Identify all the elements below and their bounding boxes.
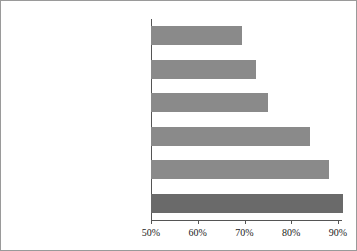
x-axis-tick-mark [151, 220, 152, 224]
bar-row: Psychiatry/Psychology [151, 187, 356, 221]
bar-geosciences [151, 60, 256, 79]
x-axis-tick-label: 70% [225, 228, 265, 238]
x-axis-tick-label: 90% [318, 228, 357, 238]
bar-row: Physics [151, 120, 356, 154]
x-axis-tick-mark [198, 220, 199, 224]
bar-space-sciences [151, 26, 242, 45]
bar-row: Geosciences [151, 53, 356, 87]
bar-psychiatry-psychology [151, 194, 343, 213]
value-axis-line [151, 220, 342, 221]
x-axis-tick-label: 50% [131, 228, 171, 238]
bar-biology-and-biochemistry [151, 160, 329, 179]
x-axis-tick-label: 60% [178, 228, 218, 238]
bar-row: Plant and Animal Sciences [151, 86, 356, 120]
x-axis-tick-mark [245, 220, 246, 224]
bar-row: Space Sciences [151, 19, 356, 53]
x-axis-tick-mark [338, 220, 339, 224]
bar-row: Biology and Biochemistry [151, 153, 356, 187]
bar-chart-figure: Space Sciences Geosciences Plant and Ani… [0, 0, 357, 251]
bar-plant-and-animal-sciences [151, 93, 268, 112]
x-axis-tick-label: 80% [271, 228, 311, 238]
bar-physics [151, 127, 310, 146]
x-axis-tick-mark [291, 220, 292, 224]
